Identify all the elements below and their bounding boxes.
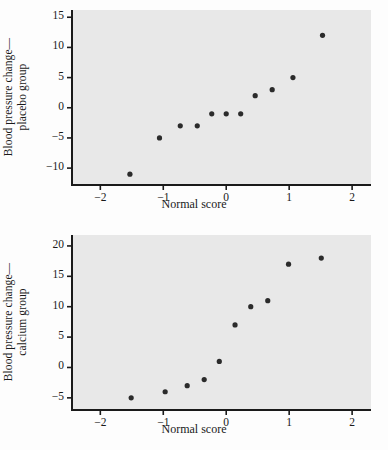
data-point [319, 255, 324, 260]
calcium-group-chart: Blood pressure change—calcium group −505… [0, 225, 388, 450]
y-tick-label: 15 [53, 9, 65, 21]
y-tick-label: 0 [58, 359, 64, 371]
x-axis-title-calcium: Normal score [0, 422, 388, 437]
y-tick-label: 20 [53, 238, 65, 250]
data-point [163, 389, 168, 394]
data-point [202, 377, 207, 382]
data-point [238, 111, 243, 116]
data-point [270, 87, 275, 92]
x-axis-title-placebo: Normal score [0, 197, 388, 212]
data-point [232, 322, 237, 327]
data-point [217, 359, 222, 364]
plot-background-calcium [72, 235, 371, 410]
data-point [265, 298, 270, 303]
y-tick-label: 0 [58, 100, 64, 112]
data-point [185, 383, 190, 388]
data-point [178, 123, 183, 128]
placebo-plot-area [0, 0, 388, 225]
data-point [129, 395, 134, 400]
normal-probability-plots-figure: Blood pressure change—placebo group −10−… [0, 0, 388, 450]
data-point [157, 135, 162, 140]
data-point [195, 123, 200, 128]
data-point [209, 111, 214, 116]
y-tick-label: 10 [53, 299, 65, 311]
placebo-group-chart: Blood pressure change—placebo group −10−… [0, 0, 388, 225]
y-tick-label: 5 [58, 70, 64, 82]
data-point [224, 111, 229, 116]
plot-background-placebo [72, 10, 371, 185]
y-tick-label: 5 [58, 329, 64, 341]
y-tick-label: −5 [52, 130, 64, 142]
data-point [248, 304, 253, 309]
data-point [127, 172, 132, 177]
y-tick-label: 15 [53, 268, 65, 280]
data-point [286, 262, 291, 267]
data-point [320, 33, 325, 38]
data-point [290, 75, 295, 80]
y-tick-label: −10 [46, 160, 64, 172]
y-tick-label: −5 [52, 390, 64, 402]
data-point [253, 93, 258, 98]
y-tick-label: 10 [53, 39, 65, 51]
